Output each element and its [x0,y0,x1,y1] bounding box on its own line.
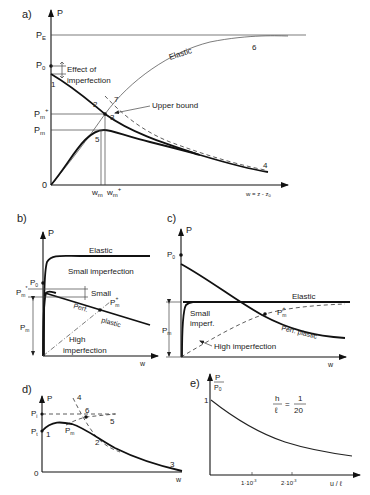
d-num-3: 3 [170,460,175,469]
figure-canvas: a) P PE P0 Effect of imperfection Elasti… [0,0,370,495]
a-pmp-label: Pm+ [34,107,49,120]
e-y-numerator: P [215,373,220,382]
e-y-tick-1: 1 [204,396,209,405]
a-num-1: 1 [51,80,56,89]
c-small-label-2: imperf. [190,319,214,328]
a-effect-label-2: imperfection [67,76,111,85]
c-x-axis-label: w [327,361,334,368]
d-num-2: 2 [95,438,100,447]
b-pms-label: Pm* [16,285,28,298]
d-num-5: 5 [110,417,115,426]
e-ratio-20: 20 [294,406,303,415]
e-y-denominator: P0 [214,384,222,392]
d-num-4: 4 [77,393,82,402]
a-wm-label: wm [91,188,103,198]
d-y-axis-label: P [47,394,52,403]
panel-c-label: c) [167,212,176,224]
a-origin-label: 0 [42,180,47,190]
panel-d-label: d) [22,383,32,395]
panel-c: c) P w P0 Perf. plastic Elastic Small im… [162,212,350,368]
panel-e-label: e) [190,377,200,389]
c-small-label-1: Small [190,309,210,318]
a-effect-label-1: Effect of [67,65,97,74]
c-elastic-label: Elastic [292,292,316,301]
panel-d: d) P w 0 Pi Pt 1 Pm 2 3 4 5 6 [22,383,182,483]
panel-b-label: b) [17,212,27,224]
panel-a: a) P PE P0 Effect of imperfection Elasti… [22,8,306,198]
e-x-tick-1: 1·10-3 [241,478,257,486]
panel-b: b) P w Elastic Small imperfection Perf. … [16,212,158,367]
b-plastic-label: plastic [100,316,122,329]
d-main-curve [42,422,182,471]
d-curve-5 [66,414,115,425]
e-ratio-h: h [275,394,279,403]
e-ratio-l: ℓ [274,406,278,415]
b-high-label-2: imperfection [63,346,107,355]
a-elastic-label: Elastic [168,46,193,62]
a-num-2: 2 [93,100,98,109]
c-pmp-label: Pm+ [277,305,287,318]
a-num-6: 6 [252,43,257,52]
b-high-label-1: High [69,335,85,344]
d-pt-label: Pt [31,427,38,437]
d-pi-label: Pi [31,409,37,419]
b-y-axis-label: P [48,228,54,238]
e-curve [211,400,352,456]
d-x-axis-label: w [175,476,182,483]
c-p0-label: P0 [167,250,175,260]
b-x-axis-label: w [139,360,146,367]
b-pmp-label: Pm+ [110,295,120,308]
panel-e: e) P P0 1 1·10-3 2·10-3 u / ℓ h ℓ = 1 20 [190,373,360,487]
b-p0-label: P0 [30,278,38,288]
b-small-label: Small [91,289,111,298]
c-y-axis-label: P [186,225,192,235]
d-num-6: 6 [85,406,90,415]
d-origin-label: 0 [34,469,39,478]
e-x-tick-2: 2·10-3 [281,478,297,486]
d-num-1: 1 [46,430,51,439]
e-x-axis-label: u / ℓ [330,480,343,487]
c-perfplastic-label: Perf. plastic [281,324,319,341]
a-plastic-curve [51,74,268,172]
a-x-axis-label: w = z - z0 [245,191,272,198]
a-num-4: 4 [263,161,268,170]
a-point-3 [103,112,107,116]
d-pm-label: Pm [65,426,75,436]
a-wmp-label: wm+ [106,186,122,198]
a-num-7: 7 [114,95,119,104]
a-y-axis-label: P [57,8,63,18]
b-small-imperfection-label: Small imperfection [68,267,134,276]
c-pm-label: Pm [162,326,172,336]
b-elastic-label: Elastic [89,246,113,255]
a-num-5: 5 [95,135,100,144]
b-pm-label: Pm [20,323,30,333]
panel-a-label: a) [22,8,32,20]
b-perf-label: Perf. [73,302,89,313]
e-ratio-eq: = [285,400,290,409]
a-p0-label: P0 [36,60,46,71]
a-pm-label: Pm [34,125,45,136]
a-num-3: 3 [110,113,115,122]
c-high-label: High imperfection [214,342,276,351]
a-pe-label: PE [36,30,46,41]
a-upper-bound-label: Upper bound [152,101,198,110]
e-ratio-1: 1 [298,394,303,403]
